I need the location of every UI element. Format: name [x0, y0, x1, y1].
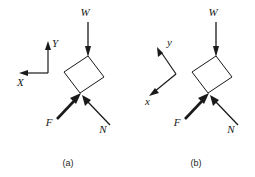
panel-b-friction-arrow-shaft: [185, 100, 203, 119]
panel-a-block: [64, 56, 104, 93]
panel-a-normal-label: N: [98, 123, 107, 135]
panel-a-y-axis-arrowhead: [45, 41, 51, 50]
panel-a-friction-force: F: [45, 93, 81, 128]
panel-a: Y X W F N (a): [16, 6, 110, 168]
panel-b-normal-label: N: [226, 123, 235, 135]
panel-a-weight-force: W: [80, 6, 91, 57]
panel-a-normal-force: N: [82, 95, 110, 135]
panel-b-x-axis-line: [154, 74, 176, 92]
panel-a-caption: (a): [63, 158, 74, 168]
panel-a-friction-label: F: [45, 116, 53, 128]
panel-b-weight-arrowhead: [213, 46, 219, 57]
panel-a-x-axis-label: X: [16, 76, 25, 88]
panel-b-friction-force: F: [173, 93, 209, 128]
panel-a-weight-label: W: [80, 6, 90, 18]
panel-a-axes: Y X: [16, 37, 60, 88]
panel-b: y x W F N (b): [144, 6, 238, 168]
panel-b-y-axis-label: y: [166, 36, 172, 48]
panel-b-weight-label: W: [208, 6, 218, 18]
panel-b-normal-force: N: [210, 95, 238, 135]
free-body-diagram-figure: Y X W F N (a): [0, 0, 255, 177]
panel-b-x-axis-label: x: [144, 95, 150, 107]
panel-b-block: [192, 56, 232, 93]
figure-root: Y X W F N (a): [0, 0, 255, 177]
panel-b-friction-label: F: [173, 116, 181, 128]
panel-a-weight-arrowhead: [85, 46, 91, 57]
panel-b-axes: y x: [144, 36, 176, 107]
panel-b-normal-arrow-shaft: [216, 102, 238, 125]
panel-b-y-axis-line: [161, 52, 176, 74]
panel-b-weight-force: W: [208, 6, 219, 57]
panel-a-y-axis-label: Y: [52, 37, 60, 49]
panel-b-caption: (b): [191, 158, 202, 168]
panel-a-friction-arrow-shaft: [57, 100, 75, 119]
panel-a-normal-arrow-shaft: [88, 102, 110, 125]
panel-b-y-axis-arrowhead: [157, 47, 163, 57]
